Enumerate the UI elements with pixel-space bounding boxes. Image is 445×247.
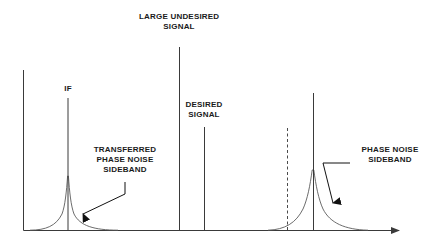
label-transferred-phase-noise-sideband: TRANSFERRED PHASE NOISE SIDEBAND <box>84 145 166 175</box>
label-desired-signal: DESIRED SIGNAL <box>175 100 233 120</box>
spectrum-diagram-canvas <box>0 0 445 247</box>
label-large-undesired-signal: LARGE UNDESIRED SIGNAL <box>139 12 219 32</box>
phase-noise-skirt <box>268 170 368 230</box>
label-phase-noise-sideband: PHASE NOISE SIDEBAND <box>352 145 428 165</box>
transferred-phase-noise-leader <box>83 182 125 214</box>
spectrum-diagram-page: LARGE UNDESIRED SIGNAL IF DESIRED SIGNAL… <box>0 0 445 247</box>
label-if: IF <box>56 84 80 94</box>
phase-noise-leader <box>323 163 350 203</box>
